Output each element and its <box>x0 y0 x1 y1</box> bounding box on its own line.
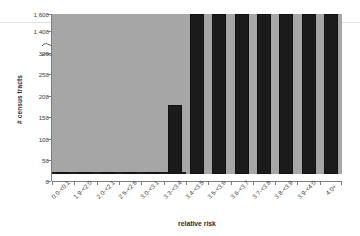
x-tick-mark <box>52 181 53 185</box>
x-tick-mark <box>253 181 254 185</box>
y-tick-label: 50 <box>8 157 49 164</box>
x-tick-mark <box>74 181 75 185</box>
x-tick-mark <box>341 181 342 185</box>
y-tick-label: 200 <box>8 93 49 100</box>
bar-12 <box>324 14 338 174</box>
x-label-slot: 3.7-<3.8 <box>253 186 275 220</box>
x-tick-mark <box>297 181 298 185</box>
plot-area <box>52 14 342 181</box>
x-tick-mark <box>208 181 209 185</box>
bar-8 <box>235 14 249 174</box>
bar-1 <box>78 172 92 174</box>
y-tick-mark <box>47 96 51 97</box>
y-tick-label: 1,600 <box>8 11 49 18</box>
bar-slot <box>231 14 253 174</box>
bar-7 <box>212 14 226 174</box>
y-tick-label: 1,400 <box>8 28 49 35</box>
x-label-slot: 3.8-<3.9 <box>275 186 297 220</box>
y-tick-label: 250 <box>8 71 49 78</box>
bar-3 <box>123 172 137 174</box>
bar-slot <box>320 14 342 174</box>
bar-slot <box>275 14 297 174</box>
histogram-chart: # census tracts 0 50 100 150 200 250 300… <box>0 0 360 236</box>
bar-10 <box>279 14 293 174</box>
x-tick-mark <box>186 181 187 185</box>
bar-0 <box>56 172 70 174</box>
x-label-slot: 0.0-<0.1 <box>52 186 74 220</box>
y-tick-label: 300 <box>8 50 49 57</box>
x-label-slot: 2.5-<2.6 <box>119 186 141 220</box>
x-tick-mark <box>119 181 120 185</box>
bar-slot <box>119 172 141 174</box>
bar-slot <box>297 14 319 174</box>
bar-series <box>52 14 342 174</box>
bar-slot <box>186 14 208 174</box>
y-tick-mark <box>47 139 51 140</box>
y-tick-mark <box>47 181 51 182</box>
x-tick-mark <box>164 181 165 185</box>
bar-2 <box>101 172 115 174</box>
bar-slot <box>74 172 96 174</box>
x-label-slot: 2.0-<2.1 <box>97 186 119 220</box>
bar-slot <box>253 14 275 174</box>
x-label-slot: 3.4-<3.5 <box>186 186 208 220</box>
bar-11 <box>302 14 316 174</box>
bar-slot <box>164 172 186 174</box>
x-label-slot: 3.6-<3.7 <box>231 186 253 220</box>
y-tick-label: 150 <box>8 114 49 121</box>
bar-slot <box>97 172 119 174</box>
x-label-slot: 1.9-<2.0 <box>74 186 96 220</box>
x-label-slot: 3.5-<3.6 <box>208 186 230 220</box>
bar-slot <box>208 14 230 174</box>
y-tick-label: 0 <box>8 178 49 185</box>
x-axis-labels: 0.0-<0.1 1.9-<2.0 2.0-<2.1 2.5-<2.6 3.0-… <box>52 186 342 220</box>
bar-slot <box>52 172 74 174</box>
x-label-slot: 3.0-<3.1 <box>141 186 163 220</box>
y-tick-mark <box>47 160 51 161</box>
bar-4 <box>145 172 159 174</box>
x-axis-title: relative risk <box>52 220 342 227</box>
x-tick-mark <box>141 181 142 185</box>
x-label-slot: 3.3-<3.4 <box>164 186 186 220</box>
y-tick-mark <box>47 31 51 32</box>
y-tick-mark <box>47 74 51 75</box>
x-tick-mark <box>97 181 98 185</box>
y-tick-mark <box>47 117 51 118</box>
bar-6 <box>190 14 204 174</box>
x-label-slot: 3.9-<4.0 <box>297 186 319 220</box>
y-tick-label: 100 <box>8 136 49 143</box>
bar-9 <box>257 14 271 174</box>
x-tick-mark <box>231 181 232 185</box>
x-tick-mark <box>275 181 276 185</box>
bar-slot <box>141 172 163 174</box>
bar-5 <box>168 105 182 175</box>
x-label-slot: 4.0+ <box>320 186 342 220</box>
x-tick-mark <box>320 181 321 185</box>
y-tick-mark <box>47 14 51 15</box>
y-tick-mark <box>47 53 51 54</box>
